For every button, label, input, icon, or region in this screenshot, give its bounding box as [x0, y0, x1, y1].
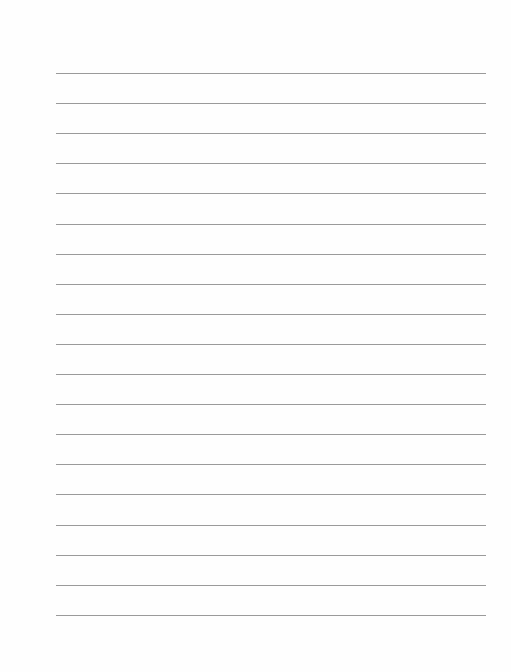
ruled-line	[56, 314, 486, 315]
ruled-line	[56, 133, 486, 134]
lined-paper-page	[0, 0, 511, 672]
ruled-line	[56, 464, 486, 465]
ruled-line	[56, 374, 486, 375]
ruled-line	[56, 193, 486, 194]
ruled-line	[56, 555, 486, 556]
ruled-line	[56, 525, 486, 526]
ruled-line	[56, 73, 486, 74]
ruled-line	[56, 615, 486, 616]
ruled-line	[56, 494, 486, 495]
ruled-line	[56, 254, 486, 255]
ruled-line	[56, 585, 486, 586]
ruled-line	[56, 224, 486, 225]
ruled-line	[56, 103, 486, 104]
ruled-line	[56, 284, 486, 285]
ruled-line	[56, 163, 486, 164]
ruled-line	[56, 404, 486, 405]
ruled-line	[56, 344, 486, 345]
ruled-line	[56, 434, 486, 435]
